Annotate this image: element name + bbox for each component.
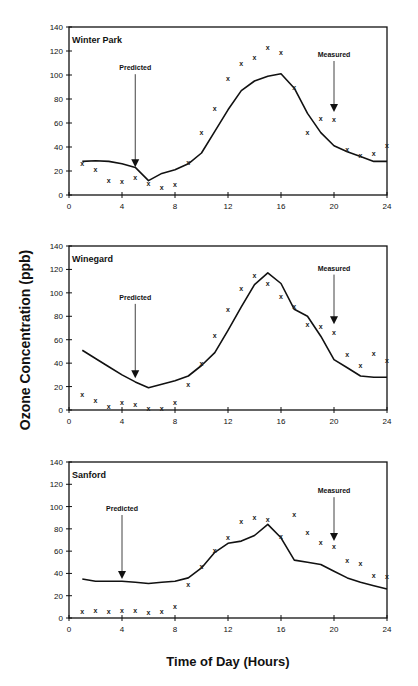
measured-marker: x xyxy=(279,49,283,56)
annotation-predicted: Predicted xyxy=(119,64,151,71)
measured-marker: x xyxy=(359,560,363,567)
measured-marker: x xyxy=(279,533,283,540)
annotation-measured: Measured xyxy=(318,487,351,494)
measured-marker: x xyxy=(94,607,98,614)
measured-marker: x xyxy=(279,293,283,300)
arrow-head-icon xyxy=(330,316,338,324)
measured-marker: x xyxy=(226,306,230,313)
measured-marker: x xyxy=(200,129,204,136)
y-tick-label: 100 xyxy=(50,503,64,512)
y-tick-label: 100 xyxy=(50,289,64,298)
figure-canvas: 02040608010012014004812162024Winter Park… xyxy=(0,0,418,686)
measured-marker: x xyxy=(226,75,230,82)
measured-marker: x xyxy=(160,608,164,615)
measured-marker: x xyxy=(345,557,349,564)
y-tick-label: 120 xyxy=(50,47,64,56)
y-tick-label: 20 xyxy=(54,592,63,601)
y-tick-label: 40 xyxy=(54,143,63,152)
measured-marker: x xyxy=(292,303,296,310)
measured-marker: x xyxy=(200,563,204,570)
chart-panel-winter-park: 02040608010012014004812162024Winter Park… xyxy=(50,23,392,211)
measured-marker: x xyxy=(107,177,111,184)
measured-marker: x xyxy=(292,511,296,518)
y-tick-label: 100 xyxy=(50,71,64,80)
measured-marker: x xyxy=(239,518,243,525)
annotation-predicted: Predicted xyxy=(119,294,151,301)
measured-marker: x xyxy=(253,272,257,279)
measured-marker: x xyxy=(306,321,310,328)
measured-marker: x xyxy=(173,399,177,406)
y-tick-label: 140 xyxy=(50,458,64,467)
measured-marker: x xyxy=(147,405,151,412)
measured-marker: x xyxy=(306,529,310,536)
x-tick-label: 8 xyxy=(173,417,178,426)
x-tick-label: 0 xyxy=(67,417,72,426)
y-tick-label: 20 xyxy=(54,167,63,176)
measured-marker: x xyxy=(186,159,190,166)
measured-marker: x xyxy=(345,351,349,358)
measured-marker: x xyxy=(319,323,323,330)
x-tick-label: 24 xyxy=(383,417,392,426)
x-tick-label: 16 xyxy=(277,625,286,634)
annotation-predicted: Predicted xyxy=(106,505,138,512)
arrow-head-icon xyxy=(330,104,338,112)
measured-marker: x xyxy=(147,180,151,187)
panel-title: Winter Park xyxy=(72,35,123,45)
y-tick-label: 20 xyxy=(54,383,63,392)
measured-marker: x xyxy=(332,329,336,336)
measured-marker: x xyxy=(226,534,230,541)
y-tick-label: 40 xyxy=(54,569,63,578)
measured-marker: x xyxy=(239,285,243,292)
measured-marker: x xyxy=(306,129,310,136)
panel-title: Winegard xyxy=(72,254,113,264)
y-tick-label: 60 xyxy=(54,547,63,556)
x-tick-label: 8 xyxy=(173,202,178,211)
measured-marker: x xyxy=(173,603,177,610)
x-tick-label: 12 xyxy=(224,417,233,426)
x-tick-label: 4 xyxy=(120,625,125,634)
x-tick-label: 24 xyxy=(383,625,392,634)
annotation-measured: Measured xyxy=(318,51,351,58)
y-tick-label: 120 xyxy=(50,480,64,489)
measured-marker: x xyxy=(253,54,257,61)
measured-marker: x xyxy=(385,573,389,580)
y-tick-label: 0 xyxy=(59,191,64,200)
x-tick-label: 20 xyxy=(330,625,339,634)
chart-panel-winegard: 02040608010012014004812162024Winegardxxx… xyxy=(50,242,392,426)
y-tick-label: 0 xyxy=(59,406,64,415)
x-tick-label: 12 xyxy=(224,202,233,211)
panel-title: Sanford xyxy=(72,470,106,480)
measured-marker: x xyxy=(385,357,389,364)
predicted-line xyxy=(82,524,387,589)
measured-marker: x xyxy=(120,178,124,185)
measured-marker: x xyxy=(120,399,124,406)
y-tick-label: 140 xyxy=(50,23,64,32)
x-tick-label: 0 xyxy=(67,625,72,634)
measured-marker: x xyxy=(173,181,177,188)
measured-marker: x xyxy=(372,150,376,157)
predicted-line xyxy=(82,273,387,388)
x-tick-label: 4 xyxy=(120,417,125,426)
y-tick-label: 60 xyxy=(54,336,63,345)
measured-marker: x xyxy=(266,44,270,51)
x-tick-label: 20 xyxy=(330,417,339,426)
measured-marker: x xyxy=(266,280,270,287)
measured-marker: x xyxy=(359,362,363,369)
measured-marker: x xyxy=(160,405,164,412)
measured-marker: x xyxy=(332,116,336,123)
x-tick-label: 16 xyxy=(277,417,286,426)
measured-marker: x xyxy=(147,609,151,616)
arrow-head-icon xyxy=(131,370,139,378)
predicted-line xyxy=(82,74,387,181)
measured-marker: x xyxy=(120,607,124,614)
y-tick-label: 60 xyxy=(54,119,63,128)
y-tick-label: 40 xyxy=(54,359,63,368)
measured-marker: x xyxy=(385,142,389,149)
annotation-measured: Measured xyxy=(318,265,351,272)
measured-marker: x xyxy=(319,539,323,546)
measured-marker: x xyxy=(80,391,84,398)
y-tick-label: 80 xyxy=(54,312,63,321)
measured-marker: x xyxy=(80,160,84,167)
measured-marker: x xyxy=(133,607,137,614)
measured-marker: x xyxy=(213,547,217,554)
